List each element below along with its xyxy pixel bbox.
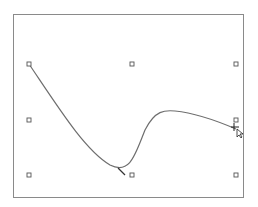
- handle-top-left[interactable]: [27, 62, 31, 66]
- handle-middle-left[interactable]: [27, 118, 31, 122]
- handle-bottom-right[interactable]: [234, 173, 238, 177]
- move-cursor-icon: [231, 123, 243, 138]
- handle-middle-right[interactable]: [234, 118, 238, 122]
- handle-bottom-left[interactable]: [27, 173, 31, 177]
- handle-bottom-center[interactable]: [130, 173, 134, 177]
- control-tangent-line: [118, 168, 125, 175]
- bezier-curve[interactable]: [29, 64, 236, 168]
- curve-layer: [0, 0, 258, 207]
- handle-top-center[interactable]: [130, 62, 134, 66]
- handle-top-right[interactable]: [234, 62, 238, 66]
